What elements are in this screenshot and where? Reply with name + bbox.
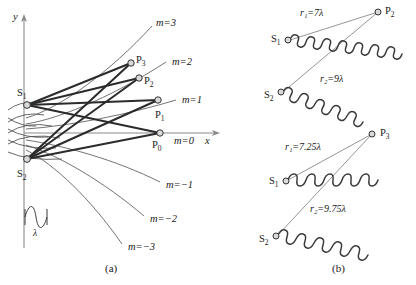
order-label-m-1: m=−1 bbox=[166, 179, 193, 190]
x-axis-label: x bbox=[204, 135, 210, 146]
panel-b-diagram-intermediate: S1 S2 P3 r₁=7.25λ r₂=9.75λ bbox=[259, 127, 390, 260]
path-label-r2-bottom: r₂=9.75λ bbox=[310, 203, 347, 214]
point-p3-label: P3 bbox=[136, 54, 146, 68]
panel-a-caption: (a) bbox=[105, 262, 118, 275]
maxima-curves-positive bbox=[26, 26, 176, 129]
source-s2-marker bbox=[24, 156, 31, 163]
wave-path-r1-bottom bbox=[288, 174, 378, 186]
wave-path-r2-bottom bbox=[278, 230, 368, 260]
path-label-r2-top: r₂=9λ bbox=[320, 73, 344, 84]
point-p2-marker bbox=[136, 75, 142, 81]
panel-b-top-point-p2-marker bbox=[375, 9, 381, 15]
wavefronts-s1 bbox=[8, 103, 60, 144]
panel-b-bottom-source-s1-label: S1 bbox=[269, 175, 279, 189]
panel-b-bottom-point-p3-marker bbox=[369, 131, 375, 137]
source-s2-label: S2 bbox=[17, 168, 27, 182]
order-label-m0: m=0 bbox=[174, 135, 195, 146]
interference-figure: y x S1 S2 P0 P1 P2 P3 m=3 m=2 m=1 m=0 m=… bbox=[0, 0, 416, 285]
point-p1-marker bbox=[155, 97, 161, 103]
panel-b-bottom-source-s2-label: S2 bbox=[259, 233, 269, 247]
curve-m2 bbox=[26, 62, 166, 124]
point-p0-label: P0 bbox=[152, 139, 162, 153]
order-label-m-2: m=−2 bbox=[150, 213, 178, 224]
order-label-m1: m=1 bbox=[182, 94, 202, 105]
wavelength-label: λ bbox=[32, 228, 37, 238]
panel-b-bottom-source-s2-marker bbox=[273, 233, 279, 239]
point-p1-label: P1 bbox=[155, 109, 165, 123]
figure-canvas: y x S1 S2 P0 P1 P2 P3 m=3 m=2 m=1 m=0 m=… bbox=[0, 0, 416, 285]
panel-b-bottom-source-s1-marker bbox=[283, 178, 289, 184]
panel-b-top-source-s1-marker bbox=[285, 37, 291, 43]
panel-a-group: y x S1 S2 P0 P1 P2 P3 m=3 m=2 m=1 m=0 m=… bbox=[8, 11, 220, 275]
panel-b-top-source-s2-label: S2 bbox=[264, 89, 274, 103]
point-p2-label: P2 bbox=[144, 75, 154, 89]
panel-b-top-point-p2-label: P2 bbox=[385, 5, 395, 19]
y-axis-label: y bbox=[12, 11, 18, 22]
wavelength-scale-indicator bbox=[25, 207, 47, 228]
source-s1-marker bbox=[24, 102, 31, 109]
panel-b-group: S1 S2 P2 r₁=7λ r₂=9λ S1 S2 P3 bbox=[259, 5, 402, 275]
panel-b-caption: (b) bbox=[332, 262, 345, 275]
curve-m-3 bbox=[26, 150, 122, 244]
panel-b-diagram-constructive: S1 S2 P2 r₁=7λ r₂=9λ bbox=[264, 5, 402, 127]
wave-path-r2-top bbox=[283, 88, 363, 127]
point-p3-marker bbox=[128, 60, 134, 66]
panel-b-top-source-s1-label: S1 bbox=[271, 33, 281, 47]
order-label-m2: m=2 bbox=[172, 56, 193, 67]
path-label-r1-bottom: r₁=7.25λ bbox=[285, 141, 322, 152]
order-label-m-3: m=−3 bbox=[128, 241, 155, 252]
source-s1-label: S1 bbox=[17, 87, 27, 101]
order-label-m3: m=3 bbox=[156, 17, 176, 28]
panel-b-top-source-s2-marker bbox=[278, 89, 284, 95]
panel-b-bottom-point-p3-label: P3 bbox=[380, 127, 390, 141]
point-p0-marker bbox=[157, 130, 163, 136]
path-label-r1-top: r₁=7λ bbox=[300, 7, 324, 18]
